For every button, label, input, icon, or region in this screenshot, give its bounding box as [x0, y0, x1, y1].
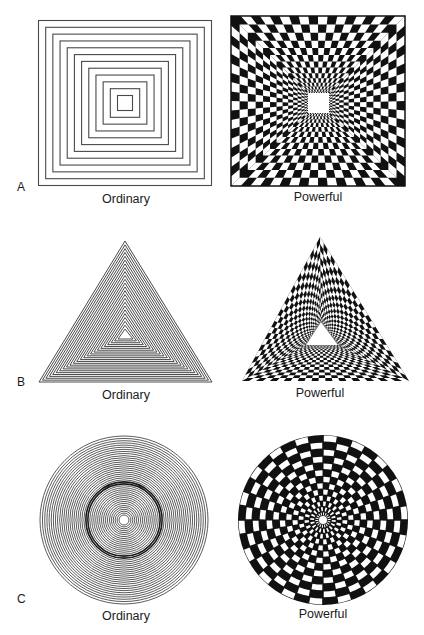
panel-a-ordinary-concentric-squares — [39, 21, 212, 186]
panel-c-powerful-polar-checkerboard — [238, 435, 408, 605]
panel-c-ordinary-concentric-circles — [40, 436, 208, 604]
caption-c-powerful: Powerful — [299, 607, 348, 621]
panel-a-powerful-checkered-square-tunnel — [231, 16, 405, 186]
figure-artwork — [0, 0, 424, 635]
panel-label-b: B — [17, 375, 25, 389]
caption-b-ordinary: Ordinary — [102, 388, 150, 402]
optical-illusion-figure: A Ordinary Powerful B Ordinary Powerful … — [0, 0, 424, 635]
panel-label-c: C — [17, 592, 26, 606]
panel-b-ordinary-concentric-triangles — [39, 241, 212, 382]
panel-b-powerful-checkered-triangle-tunnel — [242, 237, 409, 381]
caption-b-powerful: Powerful — [296, 386, 345, 400]
caption-a-powerful: Powerful — [294, 190, 343, 204]
panel-label-a: A — [17, 180, 25, 194]
caption-c-ordinary: Ordinary — [102, 609, 150, 623]
caption-a-ordinary: Ordinary — [102, 192, 150, 206]
